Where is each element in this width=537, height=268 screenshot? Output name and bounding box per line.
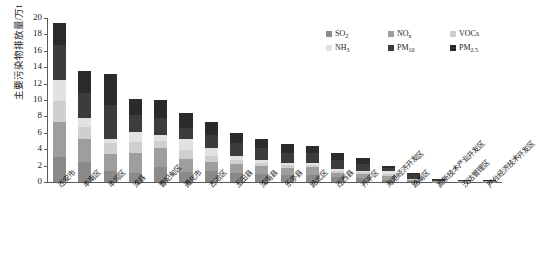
bar-segment-PM₂.₅ [205, 122, 218, 135]
bar-segment-NH₃ [129, 132, 142, 142]
bar-segment-VOCs [78, 127, 91, 138]
y-axis-tick-label: 2 [17, 161, 42, 170]
bar-segment-PM₂.₅ [78, 71, 91, 93]
bar-segment-NOₓ [154, 148, 167, 168]
bar-segment-PM₁₀ [154, 118, 167, 135]
bar-1[interactable] [53, 23, 66, 182]
legend-item-nox[interactable]: NOx [388, 27, 450, 41]
y-axis-tick-mark [44, 182, 47, 183]
y-axis-tick-label: 8 [17, 111, 42, 120]
bar-3[interactable] [104, 74, 117, 182]
bar-segment-PM₁₀ [78, 93, 91, 118]
bar-segment-NOₓ [53, 122, 66, 156]
bar-segment-PM₁₀ [281, 153, 294, 163]
legend-label-nox: NOx [397, 30, 412, 38]
bar-segment-PM₂.₅ [154, 100, 167, 118]
bar-segment-PM₁₀ [129, 115, 142, 132]
legend-label-pm10: PM10 [397, 44, 415, 52]
legend-swatch-vocs [450, 31, 456, 37]
chart-legend: SO2NOxVOCsNH3PM10PM2.5 [326, 27, 508, 55]
bar-segment-VOCs [154, 141, 167, 148]
bar-4[interactable] [129, 99, 142, 182]
bar-segment-NOₓ [129, 153, 142, 173]
bar-segment-PM₁₀ [230, 143, 243, 156]
y-axis-tick-label: 6 [17, 128, 42, 137]
legend-item-nh3[interactable]: NH3 [326, 41, 388, 55]
legend-swatch-so2 [326, 31, 332, 37]
bar-segment-NOₓ [78, 139, 91, 162]
y-axis-tick-label: 10 [17, 95, 42, 104]
legend-item-pm25[interactable]: PM2.5 [450, 41, 508, 55]
bar-segment-PM₁₀ [205, 135, 218, 148]
legend-swatch-nh3 [326, 45, 332, 51]
bar-segment-PM₁₀ [331, 160, 344, 169]
legend-label-so2: SO2 [335, 30, 348, 38]
bar-segment-VOCs [53, 101, 66, 122]
bar-segment-PM₂.₅ [306, 146, 319, 153]
y-axis-tick-label: 14 [17, 62, 42, 71]
y-axis-tick-label: 12 [17, 79, 42, 88]
legend-item-vocs[interactable]: VOCs [450, 27, 508, 41]
bar-segment-NOₓ [104, 154, 117, 171]
legend-item-pm10[interactable]: PM10 [388, 41, 450, 55]
bar-segment-PM₂.₅ [255, 139, 268, 149]
bar-segment-PM₁₀ [356, 164, 369, 171]
y-axis-tick-label: 20 [17, 13, 42, 22]
bar-segment-PM₂.₅ [230, 133, 243, 144]
bar-segment-NH₃ [53, 80, 66, 101]
bar-segment-PM₂.₅ [104, 74, 117, 106]
bar-segment-PM₁₀ [255, 148, 268, 159]
y-axis-tick-label: 0 [17, 177, 42, 186]
bar-segment-PM₂.₅ [129, 99, 142, 115]
y-axis-tick-label: 4 [17, 144, 42, 153]
bar-segment-PM₁₀ [53, 45, 66, 79]
y-axis-tick-label: 16 [17, 46, 42, 55]
bar-segment-VOCs [129, 142, 142, 153]
legend-swatch-pm10 [388, 45, 394, 51]
bar-segment-PM₁₀ [179, 128, 192, 140]
bar-segment-NOₓ [230, 164, 243, 173]
legend-label-vocs: VOCs [459, 30, 479, 38]
y-axis-tick-label: 18 [17, 29, 42, 38]
legend-swatch-nox [388, 31, 394, 37]
legend-label-pm25: PM2.5 [459, 44, 478, 52]
bar-segment-PM₂.₅ [179, 113, 192, 127]
bar-segment-NOₓ [255, 166, 268, 174]
bar-segment-PM₁₀ [306, 153, 319, 163]
bar-segment-PM₁₀ [104, 105, 117, 138]
legend-label-nh3: NH3 [335, 44, 350, 52]
bar-segment-VOCs [104, 143, 117, 154]
bar-segment-NH₃ [205, 148, 218, 157]
bar-segment-NH₃ [179, 139, 192, 150]
bar-5[interactable] [154, 100, 167, 182]
bar-segment-NH₃ [78, 118, 91, 127]
legend-swatch-pm25 [450, 45, 456, 51]
bar-segment-NOₓ [205, 162, 218, 171]
bar-segment-PM₂.₅ [281, 144, 294, 153]
bar-2[interactable] [78, 71, 91, 182]
x-axis-label-group: 迁安市丰南区丰润区滦县曹妃甸区遵化市古冶区玉田县滦南县乐亭县路北区迁西县开平区海… [47, 184, 502, 268]
bar-segment-VOCs [179, 150, 192, 159]
legend-item-so2[interactable]: SO2 [326, 27, 388, 41]
bar-segment-PM₂.₅ [53, 23, 66, 45]
